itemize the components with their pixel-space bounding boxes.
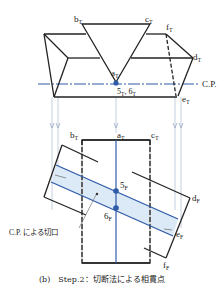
label-bT: bT [74,14,83,25]
figure-caption: (b) Step.2：切断法による相貫点 [39,274,165,284]
label-cT-front: cT [151,130,159,141]
cutting-plane-label: C.P. [202,79,217,89]
cut-label: C.P. による切口 [9,228,58,237]
intersection-point-5F [113,188,119,194]
label-fT: fT [166,22,173,33]
label-fF: fF [163,260,170,271]
label-cT: cT [145,14,153,25]
label-dF: dF [192,193,201,204]
front-view: bT aT cT dF eF fF 5F 6F C.P. による切口 [9,130,201,271]
label-dT: dT [193,52,202,63]
label-aT-front: aT [117,130,125,141]
label-56T: 5T, 6T [117,87,136,97]
label-5F: 5F [120,180,129,191]
label-eF: eF [176,229,184,240]
diagram-canvas: bT cT fT dT aT 5T, 6T eT C.P. [0,0,220,294]
label-eT: eT [182,94,190,105]
projection-arrowheads [50,123,183,128]
label-6F: 6F [104,211,113,222]
intersection-point-56T [113,80,118,85]
intersection-point-6F [113,205,119,211]
cut-section-fill [51,165,178,236]
label-bT-front: bT [70,130,79,141]
